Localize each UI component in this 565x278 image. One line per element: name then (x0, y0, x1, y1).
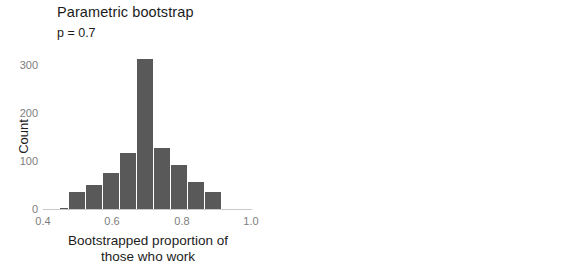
bar-parametric-6 (154, 148, 171, 209)
bar-parametric-2 (86, 185, 103, 209)
bar-parametric-7 (171, 165, 188, 209)
panel-title-parametric: Parametric bootstrap (57, 4, 194, 20)
bar-parametric-3 (103, 173, 120, 209)
x-tick-0-4-parametric: 0.4 (35, 215, 50, 227)
y-tick-100-parametric: 100 (8, 155, 38, 167)
x-tick-1-0-parametric: 1.0 (243, 215, 258, 227)
panel-subtitle-parametric: p = 0.7 (57, 26, 96, 40)
y-tick-0-parametric: 0 (8, 203, 38, 215)
bar-parametric-1 (69, 192, 86, 209)
y-tick-300-parametric: 300 (8, 59, 38, 71)
bar-parametric-4 (120, 153, 137, 209)
y-tick-200-parametric: 200 (8, 107, 38, 119)
bar-parametric-5 (137, 59, 154, 209)
x-tick-0-6-parametric: 0.6 (104, 215, 119, 227)
bar-parametric-9 (205, 192, 222, 209)
x-tick-0-8-parametric: 0.8 (174, 215, 189, 227)
bootstrap-histograms-figure: Parametric bootstrap p = 0.7 Count 0 100… (0, 0, 565, 278)
x-axis-label-line1-parametric: Bootstrapped proportion of (33, 233, 263, 249)
plot-area-parametric (43, 52, 252, 209)
x-axis-line-parametric (43, 209, 252, 210)
x-axis-label-parametric: Bootstrapped proportion of those who wor… (33, 233, 263, 265)
panel-parametric-bootstrap: Parametric bootstrap p = 0.7 Count 0 100… (0, 0, 282, 278)
x-axis-label-line2-parametric: those who work (33, 249, 263, 265)
bar-parametric-8 (188, 182, 205, 209)
